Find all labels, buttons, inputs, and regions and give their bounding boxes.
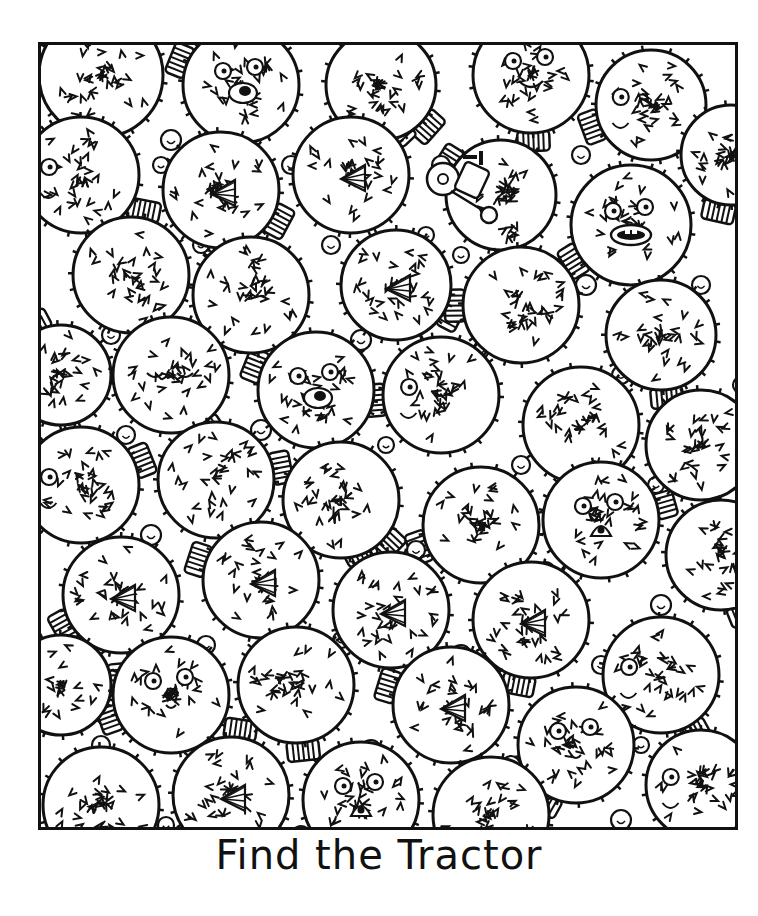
pufferfish bbox=[469, 45, 594, 138]
bubble bbox=[651, 595, 671, 615]
pufferfish bbox=[41, 742, 164, 827]
bubble bbox=[453, 247, 469, 263]
bubble bbox=[158, 817, 174, 827]
pufferfish bbox=[158, 127, 284, 253]
bubble bbox=[378, 437, 394, 453]
bubble bbox=[611, 810, 631, 827]
bubble bbox=[572, 146, 590, 164]
bubble bbox=[733, 377, 735, 393]
pufferfish bbox=[642, 725, 735, 827]
bubble bbox=[322, 236, 340, 254]
bubble bbox=[512, 456, 530, 474]
puzzle-title: Find the Tractor bbox=[0, 832, 758, 878]
pufferfish bbox=[178, 45, 303, 147]
bubble bbox=[292, 826, 310, 827]
pufferfish-illustration[interactable] bbox=[41, 45, 735, 827]
pufferfish bbox=[336, 225, 455, 345]
puzzle-frame bbox=[38, 42, 738, 830]
